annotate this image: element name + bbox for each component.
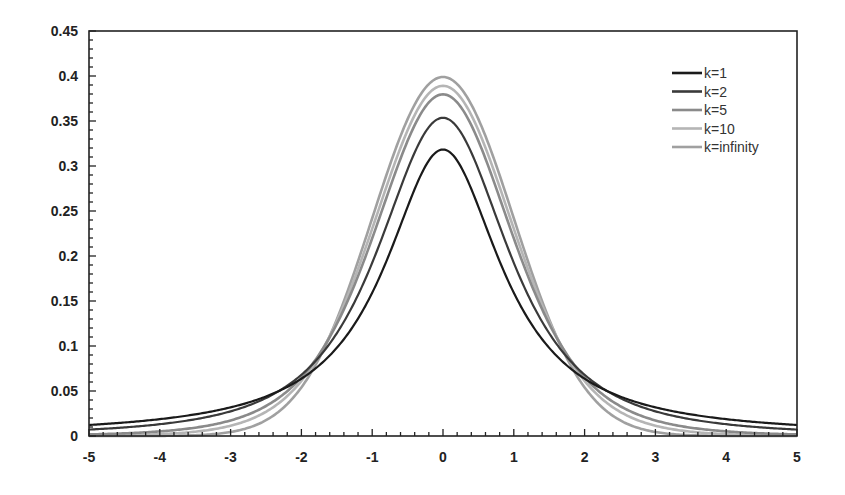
t-distribution-chart: 00.050.10.150.20.250.30.350.40.45 -5-4-3… [0, 0, 845, 495]
x-tick-label: -3 [224, 449, 237, 465]
curve-k-1 [89, 150, 797, 425]
y-tick-label: 0.05 [51, 383, 78, 399]
y-tick-label: 0 [70, 428, 78, 444]
legend-label: k=infinity [704, 139, 759, 155]
y-tick-label: 0.35 [51, 113, 78, 129]
legend-label: k=5 [704, 102, 727, 118]
plot-curves [89, 77, 797, 436]
curve-k-10 [89, 86, 797, 436]
legend-label: k=2 [704, 84, 727, 100]
legend: k=1k=2k=5k=10k=infinity [672, 65, 759, 155]
x-tick-label: 0 [439, 449, 447, 465]
curve-k-2 [89, 118, 797, 430]
legend-item: k=infinity [672, 139, 759, 155]
x-tick-label: -2 [295, 449, 308, 465]
y-tick-label: 0.15 [51, 293, 78, 309]
x-tick-label: -4 [154, 449, 167, 465]
curve-k-5 [89, 94, 797, 434]
x-tick-label: -5 [83, 449, 96, 465]
y-tick-label: 0.4 [59, 68, 79, 84]
y-tick-label: 0.25 [51, 203, 78, 219]
legend-label: k=1 [704, 65, 727, 81]
y-tick-label: 0.3 [59, 158, 79, 174]
legend-item: k=2 [672, 84, 727, 100]
y-tick-label: 0.2 [59, 248, 79, 264]
y-tick-label: 0.1 [59, 338, 79, 354]
legend-item: k=5 [672, 102, 727, 118]
legend-item: k=10 [672, 121, 735, 137]
x-tick-label: 5 [793, 449, 801, 465]
x-tick-label: 4 [722, 449, 730, 465]
x-tick-label: 1 [510, 449, 518, 465]
x-tick-label: 3 [652, 449, 660, 465]
x-tick-label: 2 [581, 449, 589, 465]
x-tick-label: -1 [366, 449, 379, 465]
legend-label: k=10 [704, 121, 735, 137]
y-tick-label: 0.45 [51, 23, 78, 39]
curve-k-infinity [89, 77, 797, 436]
legend-item: k=1 [672, 65, 727, 81]
